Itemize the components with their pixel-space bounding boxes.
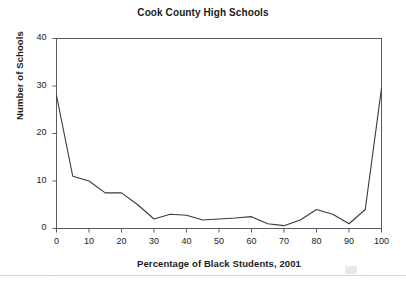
x-axis-ticks	[57, 229, 382, 233]
y-tick-label: 20	[21, 127, 47, 137]
x-tick-label: 30	[141, 236, 167, 246]
x-tick-label: 0	[44, 236, 70, 246]
y-tick-label: 0	[21, 222, 47, 232]
scan-artifact-smudge	[345, 266, 357, 274]
x-tick-label: 20	[109, 236, 135, 246]
chart-figure: Cook County High Schools Number of Schoo…	[0, 0, 406, 284]
x-tick-label: 80	[304, 236, 330, 246]
x-tick-label: 10	[76, 236, 102, 246]
scan-artifact-line	[0, 275, 406, 276]
x-tick-label: 70	[271, 236, 297, 246]
x-tick-label: 50	[206, 236, 232, 246]
y-tick-label: 30	[21, 80, 47, 90]
y-tick-label: 40	[21, 32, 47, 42]
plot-frame	[57, 39, 382, 229]
x-tick-label: 60	[239, 236, 265, 246]
x-tick-label: 40	[174, 236, 200, 246]
y-tick-label: 10	[21, 175, 47, 185]
x-tick-label: 100	[369, 236, 395, 246]
x-tick-label: 90	[336, 236, 362, 246]
y-axis-ticks	[53, 39, 57, 229]
